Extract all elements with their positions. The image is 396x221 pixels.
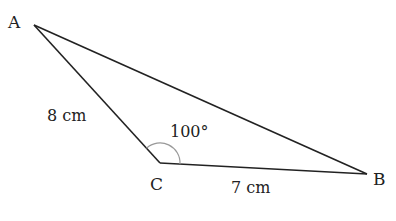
triangle-diagram: A B C 8 cm 7 cm 100° [0, 0, 396, 221]
side-ac [34, 25, 160, 163]
side-cb [160, 163, 367, 174]
vertex-label-c: C [150, 174, 163, 194]
vertex-label-a: A [7, 12, 21, 32]
side-ac-length-label: 8 cm [47, 106, 86, 125]
vertex-label-b: B [373, 169, 386, 189]
angle-c-label: 100° [170, 122, 209, 141]
side-cb-length-label: 7 cm [231, 178, 270, 197]
side-ab [34, 25, 367, 174]
